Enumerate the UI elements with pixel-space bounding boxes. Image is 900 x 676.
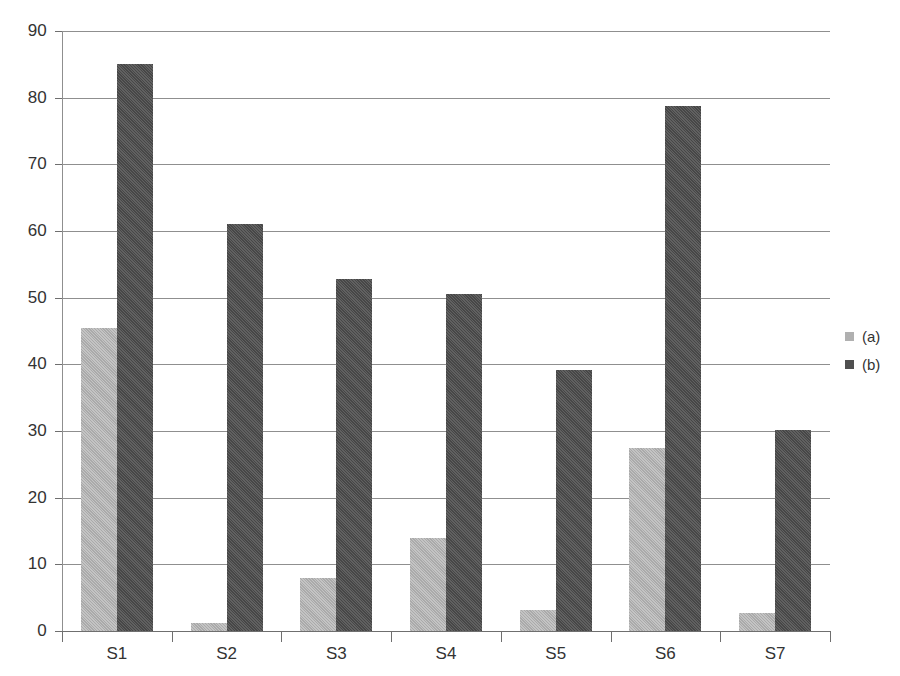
- x-axis-tick-label: S7: [765, 644, 786, 664]
- y-axis-tick-label: 40: [28, 354, 47, 374]
- y-axis-tick-label: 0: [37, 621, 47, 641]
- legend-swatch-icon: [845, 360, 854, 369]
- x-axis-separator: [172, 631, 173, 642]
- x-axis-line: [62, 631, 830, 632]
- bar-chart: 0102030405060708090 (a)(b) S1S2S3S4S5S6S…: [0, 0, 900, 676]
- x-axis-tick-label: S5: [545, 644, 566, 664]
- y-tick-60: [55, 231, 62, 232]
- legend-label: (a): [862, 328, 880, 345]
- bar-s7-series-b: [775, 430, 811, 631]
- y-tick-70: [55, 164, 62, 165]
- x-axis-tick-label: S4: [436, 644, 457, 664]
- x-axis-separator: [62, 631, 63, 642]
- x-axis-separator: [501, 631, 502, 642]
- y-axis-tick-label: 60: [28, 221, 47, 241]
- legend-label: (b): [862, 356, 880, 373]
- y-tick-90: [55, 31, 62, 32]
- y-axis-tick-label: 10: [28, 554, 47, 574]
- x-axis-separator: [611, 631, 612, 642]
- y-axis-tick-label: 70: [28, 154, 47, 174]
- legend-item-b: (b): [845, 350, 880, 378]
- y-axis-tick-label: 80: [28, 88, 47, 108]
- bar-group-s7: [62, 31, 830, 631]
- y-tick-0: [55, 631, 62, 632]
- plot-area: [62, 31, 830, 631]
- legend: (a)(b): [845, 322, 880, 378]
- y-axis-tick-label: 30: [28, 421, 47, 441]
- y-tick-80: [55, 98, 62, 99]
- y-tick-40: [55, 364, 62, 365]
- y-tick-20: [55, 498, 62, 499]
- y-tick-50: [55, 298, 62, 299]
- x-axis-tick-label: S1: [106, 644, 127, 664]
- x-axis-tick-label: S2: [216, 644, 237, 664]
- y-tick-10: [55, 564, 62, 565]
- y-axis-tick-label: 20: [28, 488, 47, 508]
- x-axis-separator: [830, 631, 831, 642]
- y-axis-tick-label: 50: [28, 288, 47, 308]
- legend-item-a: (a): [845, 322, 880, 350]
- legend-swatch-icon: [845, 332, 854, 341]
- bar-s7-series-a: [739, 613, 775, 631]
- y-axis-labels: 0102030405060708090: [0, 0, 47, 676]
- y-tick-30: [55, 431, 62, 432]
- x-axis-tick-label: S6: [655, 644, 676, 664]
- x-axis-separator: [281, 631, 282, 642]
- x-axis-separator: [391, 631, 392, 642]
- x-axis-tick-label: S3: [326, 644, 347, 664]
- y-axis-tick-label: 90: [28, 21, 47, 41]
- x-axis-separator: [720, 631, 721, 642]
